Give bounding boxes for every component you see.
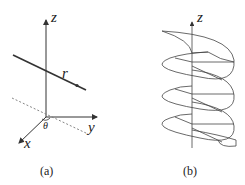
helix-edge-2 — [208, 52, 234, 62]
helix-turn-1 — [162, 31, 234, 79]
line-point — [75, 84, 78, 87]
figure-b: z (b) — [162, 9, 236, 178]
z-axis-label: z — [50, 9, 57, 25]
line-r — [13, 55, 86, 90]
helix-inner-1 — [162, 31, 192, 53]
line-r-label: r — [62, 65, 68, 81]
figure-a: z y x θ r (a) — [12, 9, 97, 178]
y-axis-label: y — [86, 119, 95, 135]
x-axis-label: x — [23, 135, 31, 151]
helix-turn-3 — [162, 102, 234, 140]
caption-b: (b) — [183, 164, 197, 178]
helix-turn-2 — [162, 70, 234, 110]
theta-label: θ — [43, 120, 48, 131]
helix-axis-label: z — [196, 9, 203, 25]
caption-a: (a) — [40, 164, 53, 178]
dashed-projection-line — [12, 98, 88, 134]
helix-ray — [192, 52, 208, 53]
figure-canvas: z y x θ r (a) z — [0, 0, 245, 185]
